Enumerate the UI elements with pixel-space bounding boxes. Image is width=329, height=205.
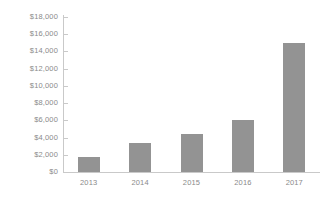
bar: [78, 157, 100, 172]
y-axis-tick-label: $10,000: [2, 81, 58, 90]
bar: [232, 120, 254, 172]
y-axis-tick-label: $14,000: [2, 46, 58, 55]
y-axis-tick-label: $16,000: [2, 29, 58, 38]
y-axis-tick-label: $4,000: [2, 133, 58, 142]
bar: [129, 143, 151, 172]
x-axis-tick-label: 2017: [264, 178, 324, 187]
x-axis-line: [63, 172, 320, 173]
y-axis-tick-label: $0: [2, 167, 58, 176]
bar: [283, 43, 305, 172]
y-axis-tick-label: $2,000: [2, 150, 58, 159]
y-axis-tick-label: $18,000: [2, 12, 58, 21]
y-axis-tick-label: $6,000: [2, 115, 58, 124]
plot-area: [63, 17, 320, 172]
y-axis-tick-label: $12,000: [2, 64, 58, 73]
y-axis-tick-label: $8,000: [2, 98, 58, 107]
bar: [181, 134, 203, 172]
y-axis-tick: [63, 172, 68, 173]
bar-chart: $0$2,000$4,000$6,000$8,000$10,000$12,000…: [0, 0, 329, 205]
